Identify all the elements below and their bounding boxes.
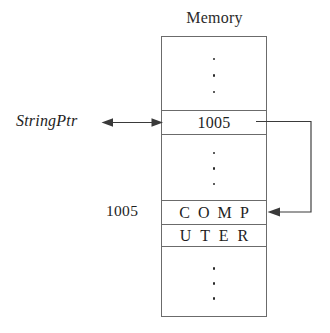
string-char: U	[180, 227, 192, 245]
string-char: P	[240, 204, 249, 222]
pointer-variable-arrow	[102, 118, 164, 126]
memory-cell-string-row-2: U T E R	[162, 225, 266, 247]
ellipsis-dot	[213, 267, 216, 270]
memory-ellipsis-region-bottom	[162, 247, 266, 316]
ellipsis-dot	[213, 74, 216, 77]
page-title: Memory	[161, 8, 268, 28]
ellipsis-dot	[213, 183, 216, 186]
string-char: O	[198, 204, 210, 222]
ellipsis-dot	[213, 282, 216, 285]
string-char: M	[218, 204, 232, 222]
memory-ellipsis-region-middle	[162, 135, 266, 201]
pointer-variable-label: StringPtr	[16, 112, 77, 130]
ellipsis-dot	[213, 58, 216, 61]
ellipsis-dot	[213, 167, 216, 170]
ellipsis-dot	[213, 297, 216, 300]
memory-ellipsis-region-top	[162, 37, 266, 111]
string-char: R	[237, 227, 248, 245]
memory-column: 1005 C O M P U T E R	[161, 36, 267, 317]
memory-cell-pointer-value: 1005	[162, 111, 266, 135]
string-char: E	[219, 227, 229, 245]
ellipsis-dot	[213, 152, 216, 155]
target-address-label: 1005	[106, 202, 138, 220]
ellipsis-dot	[213, 91, 216, 94]
memory-cell-string-row-1: C O M P	[162, 201, 266, 225]
string-char: C	[179, 204, 190, 222]
diagram-canvas: Memory StringPtr 1005 1005 C O M P U T E…	[0, 0, 330, 333]
string-char: T	[200, 227, 210, 245]
